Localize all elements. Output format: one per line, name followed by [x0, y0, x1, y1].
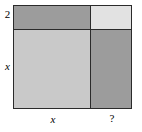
cell-top-right	[91, 6, 131, 30]
label-top-row-height: 2	[2, 9, 13, 20]
label-bottom-row-height: x	[2, 61, 13, 72]
label-left-column-width: x	[40, 114, 66, 125]
label-right-column-width: ?	[99, 113, 125, 124]
area-model-diagram: 2 x x ?	[0, 0, 142, 132]
cell-bottom-right	[91, 30, 131, 108]
rectangle-grid	[13, 5, 132, 109]
cell-top-left	[14, 6, 91, 30]
cell-bottom-left	[14, 30, 91, 108]
